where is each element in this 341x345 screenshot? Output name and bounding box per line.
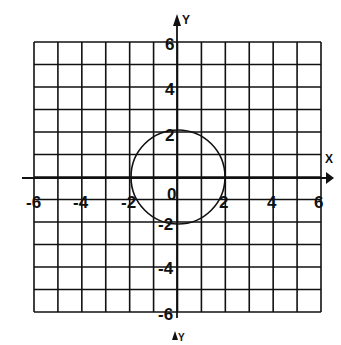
coordinate-plane: X Y 6 4 2 0 -2 -4 -6 -6 -4 -2 2 4 6 Y <box>0 0 341 345</box>
x-tick-6: 6 <box>314 193 323 212</box>
y-tick-4: 4 <box>165 80 175 99</box>
y-tick-2: 2 <box>165 126 174 145</box>
second-y-axis-label: Y <box>178 332 185 343</box>
x-tick-neg6: -6 <box>26 193 41 212</box>
y-axis-arrow-icon <box>173 14 181 26</box>
y-tick-neg4: -4 <box>158 259 174 278</box>
x-tick-4: 4 <box>267 193 277 212</box>
y-tick-neg6: -6 <box>158 305 173 324</box>
x-axis-arrow-icon <box>326 172 334 184</box>
y-tick-neg2: -2 <box>158 215 173 234</box>
y-axis-label: Y <box>182 13 190 27</box>
x-axis-label: X <box>325 152 333 166</box>
x-tick-2: 2 <box>219 193 228 212</box>
origin-label: 0 <box>167 185 176 204</box>
x-tick-neg2: -2 <box>121 193 136 212</box>
y-tick-6: 6 <box>165 35 174 54</box>
x-tick-neg4: -4 <box>73 193 89 212</box>
